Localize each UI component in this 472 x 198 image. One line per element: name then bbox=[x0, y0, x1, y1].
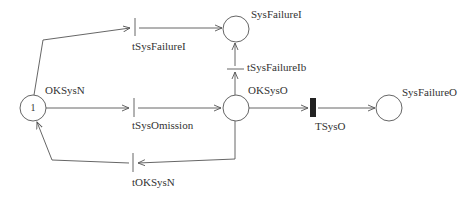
label-sysfailurei: SysFailureI bbox=[251, 8, 302, 20]
arc-toksysn-to-oksysn bbox=[37, 122, 129, 163]
place-oksyso[interactable] bbox=[223, 95, 249, 121]
label-tsysfailureib: tSysFailureIb bbox=[247, 61, 306, 73]
label-tsysomission: tSysOmission bbox=[132, 119, 193, 131]
label-tsysfailurei: tSysFailureI bbox=[132, 40, 186, 52]
token-count-oksysn: 1 bbox=[27, 102, 39, 114]
petri-net-canvas bbox=[0, 0, 472, 198]
label-toksysn: tOKSysN bbox=[132, 176, 175, 188]
place-sysfailureo[interactable] bbox=[376, 95, 402, 121]
label-tsyso: TSysO bbox=[315, 120, 346, 132]
place-sysfailurei[interactable] bbox=[223, 16, 249, 42]
label-sysfailureo: SysFailureO bbox=[402, 86, 457, 98]
label-oksyso: OKSysO bbox=[248, 84, 288, 96]
label-oksysn: OKSysN bbox=[45, 84, 85, 96]
transition-tsyso[interactable] bbox=[310, 98, 316, 117]
